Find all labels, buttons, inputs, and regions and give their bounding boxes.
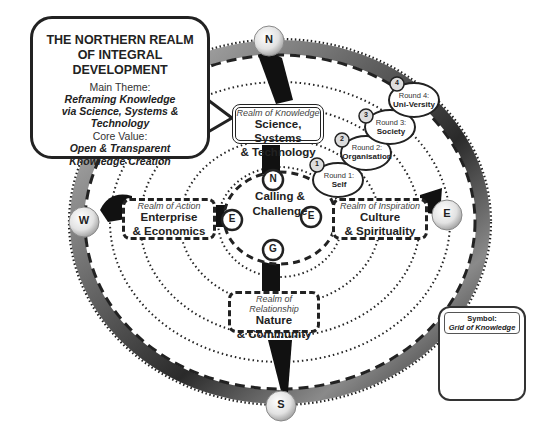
callout-value-2: Knowledge Creation: [33, 155, 207, 167]
round-3: Round 3: Society: [368, 118, 414, 137]
callout-theme-label: Main Theme:: [33, 81, 207, 93]
compass-east-label: E: [440, 207, 454, 220]
realm-west-name-1: Enterprise: [125, 211, 213, 225]
round-3-label: Round 3:: [368, 118, 414, 127]
round-2-number: 2: [335, 135, 349, 143]
round-2: Round 2: Organisation: [341, 143, 393, 162]
compass-south-label: S: [274, 398, 288, 411]
compass-west-label: W: [77, 214, 91, 227]
inner-marker-north: N: [266, 173, 280, 185]
round-4-label: Round 4:: [390, 91, 438, 100]
realm-east-kind: Realm of Inspiration: [335, 201, 425, 211]
realm-east: Realm of Inspiration Culture & Spiritual…: [332, 198, 428, 240]
center-line-1: Calling &: [240, 189, 320, 204]
callout-title-1: THE NORTHERN REALM: [33, 33, 207, 47]
round-2-name: Organisation: [342, 152, 391, 161]
round-1-number: 1: [310, 160, 324, 168]
callout-title-2: OF INTEGRAL DEVELOPMENT: [33, 48, 207, 77]
northern-realm-callout: THE NORTHERN REALM OF INTEGRAL DEVELOPME…: [30, 16, 210, 159]
realm-north-name-2: & Technology: [236, 146, 320, 160]
realm-south-name-2: & Community: [231, 328, 317, 342]
center-line-2: Challenge: [240, 204, 320, 219]
compass-north-label: N: [262, 33, 276, 46]
callout-pointer: [208, 100, 232, 132]
round-4: Round 4: Uni-Versity: [390, 91, 438, 110]
center-label: Calling & Challenge: [240, 189, 320, 219]
callout-value-label: Core Value:: [33, 130, 207, 142]
callout-theme-2: via Science, Systems & Technology: [33, 105, 207, 129]
realm-south-kind: Realm of Relationship: [231, 294, 317, 314]
symbol-header: Symbol: Grid of Knowledge: [444, 312, 520, 334]
realm-south: Realm of Relationship Nature & Community: [228, 291, 320, 333]
callout-theme-1: Reframing Knowledge: [33, 93, 207, 105]
realm-east-name-2: & Spirituality: [335, 225, 425, 239]
realm-west: Realm of Action Enterprise & Economics: [122, 198, 216, 240]
realm-north-name-1: Science, Systems: [236, 118, 320, 146]
round-1-name: Self: [332, 180, 347, 189]
round-1: Round 1: Self: [316, 171, 362, 190]
callout-value-1: Open & Transparent: [33, 142, 207, 154]
symbol-name: Grid of Knowledge: [445, 323, 519, 332]
inner-marker-south: G: [266, 243, 280, 255]
round-4-name: Uni-Versity: [393, 100, 435, 109]
round-4-number: 4: [390, 79, 404, 87]
inner-marker-west: E: [225, 213, 239, 225]
realm-north-kind: Realm of Knowledge: [236, 108, 320, 118]
realm-west-kind: Realm of Action: [125, 201, 213, 211]
round-3-name: Society: [377, 127, 405, 136]
round-1-label: Round 1:: [316, 171, 362, 180]
symbol-legend: Symbol: Grid of Knowledge: [438, 306, 526, 401]
symbol-label: Symbol:: [445, 314, 519, 323]
round-2-label: Round 2:: [341, 143, 393, 152]
realm-south-name-1: Nature: [231, 314, 317, 328]
realm-north: Realm of Knowledge Science, Systems & Te…: [232, 104, 324, 144]
realm-west-name-2: & Economics: [125, 225, 213, 239]
realm-east-name-1: Culture: [335, 211, 425, 225]
